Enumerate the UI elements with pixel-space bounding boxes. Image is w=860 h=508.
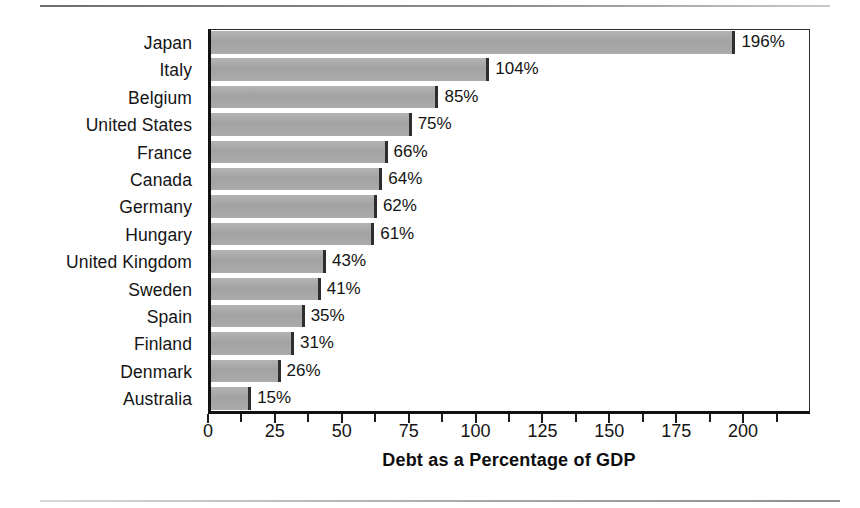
x-axis-tick-labels: 0255075100125150175200 [208,421,810,447]
bar [211,141,388,164]
x-axis-tick-label: 150 [594,421,624,442]
bar [211,332,294,355]
x-axis-tick-label: 50 [332,421,352,442]
bar [211,250,326,273]
page-rule-bottom [40,500,840,502]
bar-row: 31% [211,331,809,358]
category-label: Sweden [0,277,200,304]
category-axis-labels: JapanItalyBelgiumUnited StatesFranceCana… [0,30,200,413]
bar [211,113,412,136]
bar-row: 15% [211,386,809,413]
bar-row: 75% [211,112,809,139]
bar [211,305,305,328]
bar-value-label: 66% [388,138,428,165]
x-axis-title: Debt as a Percentage of GDP [208,450,810,471]
bar-value-label: 43% [326,247,366,274]
category-label: Germany [0,194,200,221]
category-label: Belgium [0,85,200,112]
category-label: Hungary [0,222,200,249]
x-axis-tick-label: 25 [265,421,285,442]
x-axis-tick-label: 175 [661,421,691,442]
bar [211,223,374,246]
bar-value-label: 61% [374,220,414,247]
bar-row: 26% [211,359,809,386]
category-label: Japan [0,30,200,57]
bar-row: 43% [211,249,809,276]
bar-row: 104% [211,57,809,84]
bar-row: 35% [211,304,809,331]
bar-value-label: 64% [382,165,422,192]
bar [211,360,281,383]
category-label: Denmark [0,359,200,386]
bars-container: 196%104%85%75%66%64%62%61%43%41%35%31%26… [211,30,809,411]
bar-row: 62% [211,194,809,221]
bar-row: 64% [211,167,809,194]
bar [211,387,251,410]
x-axis-tick-label: 200 [728,421,758,442]
category-label: Finland [0,331,200,358]
bar-value-label: 41% [321,275,361,302]
category-label: United Kingdom [0,249,200,276]
x-axis-tick-label: 100 [461,421,491,442]
bar [211,278,321,301]
bar-value-label: 85% [438,83,478,110]
bar-value-label: 15% [251,384,291,411]
category-label: Italy [0,57,200,84]
bar-value-label: 31% [294,329,334,356]
page-rule-top [40,5,830,7]
bar-row: 196% [211,30,809,57]
bar-chart-figure: JapanItalyBelgiumUnited StatesFranceCana… [0,0,860,508]
bar-value-label: 104% [489,55,538,82]
x-axis-tick-label: 75 [399,421,419,442]
category-label: United States [0,112,200,139]
bar [211,86,438,109]
bar-value-label: 35% [305,302,345,329]
bar-row: 61% [211,222,809,249]
bar-value-label: 62% [377,192,417,219]
x-axis-tick-label: 125 [527,421,557,442]
bar-row: 66% [211,140,809,167]
bar-value-label: 75% [412,110,452,137]
bar [211,31,735,54]
category-label: France [0,140,200,167]
bar-value-label: 26% [281,357,321,384]
bar-row: 85% [211,85,809,112]
plot-area: 196%104%85%75%66%64%62%61%43%41%35%31%26… [208,29,810,414]
bar [211,58,489,81]
bar [211,195,377,218]
bar-row: 41% [211,277,809,304]
category-label: Australia [0,386,200,413]
category-label: Spain [0,304,200,331]
x-axis-tick-label: 0 [203,421,213,442]
bar-value-label: 196% [735,28,784,55]
category-label: Canada [0,167,200,194]
bar [211,168,382,191]
